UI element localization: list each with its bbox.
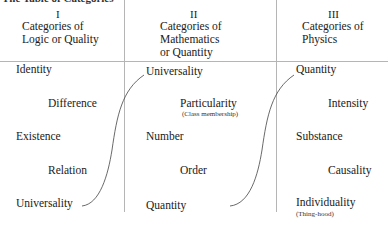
- connector-curves: [0, 0, 388, 231]
- connector-universality: [82, 75, 144, 206]
- connector-quantity: [230, 75, 294, 206]
